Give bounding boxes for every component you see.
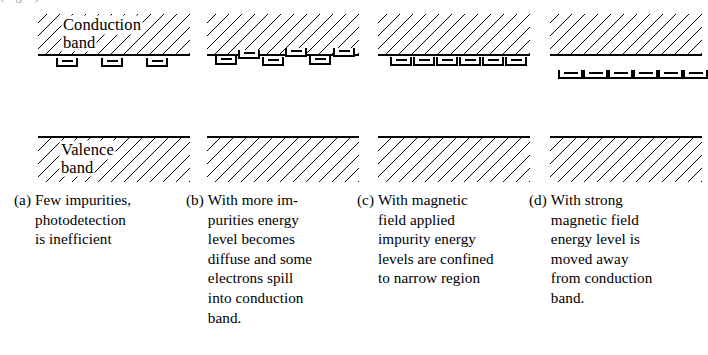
caption-text: With strong magnetic field energy level … [551,190,701,308]
impurity-level-mark [658,70,683,79]
impurity-level-mark [146,58,168,67]
impurity-level-mark [309,56,331,65]
caption-line: band. [208,308,358,328]
impurity-level-mark [333,48,355,57]
impurity-level-mark [413,57,435,66]
panel-b [207,0,359,186]
panel-a: Conduction band Valence band [38,0,190,186]
caption-line: moved away [551,249,701,269]
caption-line: levels are confined [378,249,533,269]
caption-text: With magnetic field applied impurity ene… [378,190,533,288]
impurity-level-mark [505,57,527,66]
caption-line: energy level is [551,229,701,249]
valence-band-block-c [378,136,530,182]
caption-line: photodetection [35,210,184,230]
impurity-level-mark [459,57,481,66]
caption-a: (a) Few impurities, photodetection is in… [14,190,184,249]
impurity-level-mark [215,56,237,65]
impurity-level-mark [56,58,78,67]
caption-line: electrons spill [208,268,358,288]
impurity-level-mark [482,57,504,66]
caption-line: is inefficient [35,229,184,249]
impurity-level-mark [262,57,284,66]
caption-text: Few impurities, photodetection is ineffi… [35,190,184,249]
caption-tag: (b) [186,190,208,210]
impurity-level-mark [683,70,708,79]
caption-tag: (c) [357,190,378,210]
caption-line: With magnetic [378,190,533,210]
caption-line: from conduction [551,268,701,288]
conduction-band-block-d [550,14,702,56]
caption-c: (c) With magnetic field applied impurity… [357,190,533,288]
caption-line: to narrow region [378,268,533,288]
caption-tag: (a) [14,190,35,210]
caption-b: (b) With more im- purities energy level … [186,190,358,327]
caption-line: band. [551,288,701,308]
impurity-level-mark [633,70,658,79]
caption-line: into conduction [208,288,358,308]
caption-tag: (d) [529,190,551,210]
impurity-level-mark [558,70,583,79]
impurity-level-mark [390,57,412,66]
caption-line: magnetic field [551,210,701,230]
caption-line: With more im- [208,190,358,210]
impurity-level-mark [238,50,260,59]
caption-text: With more im- purities energy level beco… [208,190,358,327]
caption-line: Few impurities, [35,190,184,210]
caption-line: field applied [378,210,533,230]
caption-line: diffuse and some [208,249,358,269]
impurity-level-mark [101,58,123,67]
valence-band-block-d [550,136,702,182]
conduction-band-block-c [378,14,530,56]
caption-d: (d) With strong magnetic field energy le… [529,190,701,308]
impurity-level-mark [583,70,608,79]
conduction-band-block-a [38,14,190,56]
valence-band-block-b [207,136,359,182]
impurity-level-mark [436,57,458,66]
valence-band-block-a [38,136,190,182]
impurity-level-mark [285,48,307,57]
caption-line: level becomes [208,229,358,249]
caption-line: purities energy [208,210,358,230]
caption-line: impurity energy [378,229,533,249]
impurity-level-mark [608,70,633,79]
panel-c [378,0,530,186]
caption-line: With strong [551,190,701,210]
panel-d [550,0,702,186]
